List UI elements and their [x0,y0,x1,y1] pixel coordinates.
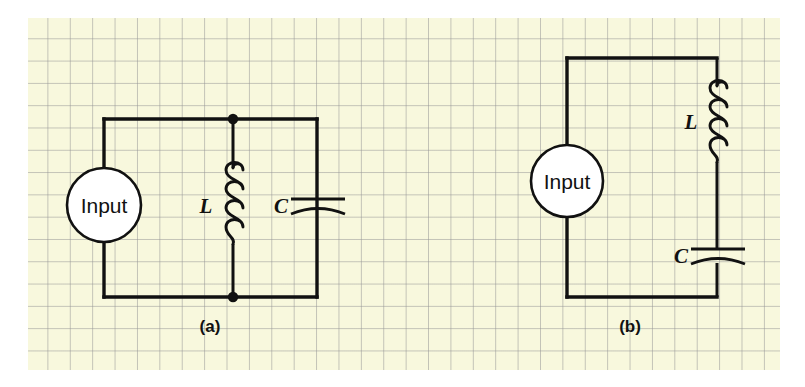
circuit-a-node-bottom [228,292,238,302]
circuit-b: Input L C [531,58,745,297]
circuit-a: Input L C [67,114,345,302]
circuit-a-caption: (a) [170,317,250,337]
circuit-b-inductor-symbol [710,81,727,163]
circuit-diagrams: Input L C [0,0,805,387]
circuit-b-capacitor-symbol [691,249,745,264]
circuit-a-input-label: Input [81,194,128,217]
circuit-a-capacitor-label: C [274,194,289,218]
circuit-a-inductor-label: L [199,194,213,218]
circuit-a-node-top [228,114,238,124]
circuit-b-inductor-label: L [684,110,698,134]
circuit-b-caption: (b) [590,317,670,337]
circuit-b-input-label: Input [544,170,591,193]
figure-page: Input L C [0,0,805,387]
circuit-a-inductor-symbol [226,163,243,245]
circuit-b-capacitor-label: C [674,244,689,268]
